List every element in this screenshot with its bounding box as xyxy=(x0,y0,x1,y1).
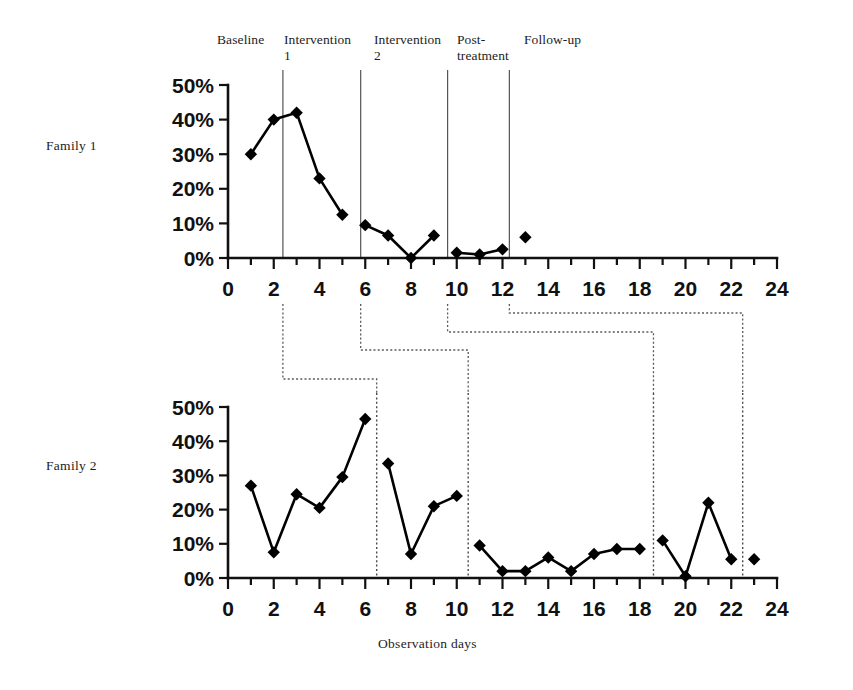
x-tick-label-16-family-2: 16 xyxy=(582,597,605,620)
data-line-segment-1-family-2 xyxy=(251,419,365,552)
y-tick-label-40-family-2: 40% xyxy=(172,430,214,453)
x-tick-label-0-family-2: 0 xyxy=(222,597,234,620)
x-tick-label-8-family-1: 8 xyxy=(405,277,417,300)
data-point-day-1-family-2 xyxy=(245,479,257,491)
data-point-day-9-family-2 xyxy=(428,500,440,512)
x-tick-label-8-family-2: 8 xyxy=(405,597,417,620)
data-point-day-23-family-2 xyxy=(748,553,760,565)
x-tick-label-16-family-1: 16 xyxy=(582,277,605,300)
data-point-day-4-family-1 xyxy=(313,172,325,184)
y-tick-label-30-family-2: 30% xyxy=(172,464,214,487)
phase-connector-4 xyxy=(509,304,742,393)
data-point-day-5-family-1 xyxy=(336,209,348,221)
data-point-day-7-family-2 xyxy=(382,457,394,469)
x-tick-label-12-family-1: 12 xyxy=(491,277,514,300)
x-tick-label-6-family-2: 6 xyxy=(359,597,371,620)
data-point-day-2-family-2 xyxy=(268,546,280,558)
x-tick-label-6-family-1: 6 xyxy=(359,277,371,300)
x-tick-label-18-family-2: 18 xyxy=(628,597,652,620)
data-point-day-12-family-1 xyxy=(496,243,508,255)
data-point-day-3-family-1 xyxy=(290,106,302,118)
y-tick-label-20-family-2: 20% xyxy=(172,498,214,521)
y-tick-label-40-family-1: 40% xyxy=(172,108,214,131)
y-tick-label-0-family-2: 0% xyxy=(184,567,215,590)
data-point-day-21-family-2 xyxy=(702,497,714,509)
x-tick-label-0-family-1: 0 xyxy=(222,277,234,300)
data-point-day-19-family-2 xyxy=(656,534,668,546)
data-point-day-3-family-2 xyxy=(290,488,302,500)
y-tick-label-20-family-1: 20% xyxy=(172,177,214,200)
x-tick-label-20-family-2: 20 xyxy=(674,597,697,620)
x-tick-label-24-family-2: 24 xyxy=(765,597,789,620)
x-tick-label-4-family-1: 4 xyxy=(314,277,326,300)
x-tick-label-22-family-1: 22 xyxy=(720,277,743,300)
data-point-day-13-family-2 xyxy=(519,565,531,577)
data-point-day-22-family-2 xyxy=(725,553,737,565)
x-tick-label-2-family-2: 2 xyxy=(268,597,280,620)
data-point-day-20-family-2 xyxy=(679,570,691,582)
phase-connector-1 xyxy=(283,304,377,393)
chart-figure: Baseline Intervention 1 Intervention 2 P… xyxy=(0,0,853,690)
data-point-day-10-family-2 xyxy=(451,490,463,502)
x-tick-label-12-family-2: 12 xyxy=(491,597,514,620)
x-tick-label-10-family-1: 10 xyxy=(445,277,468,300)
data-point-day-13-family-1 xyxy=(519,231,531,243)
phase-connector-3 xyxy=(448,304,654,393)
y-tick-label-50-family-2: 50% xyxy=(172,396,214,419)
data-line-segment-4-family-2 xyxy=(663,503,732,577)
panel-family-2: 0%10%20%30%40%50%024681012141618202224 xyxy=(172,393,789,620)
x-tick-label-22-family-2: 22 xyxy=(720,597,743,620)
x-tick-label-14-family-1: 14 xyxy=(537,277,561,300)
data-line-segment-2-family-1 xyxy=(365,225,434,258)
y-tick-label-0-family-1: 0% xyxy=(184,247,215,270)
x-tick-label-4-family-2: 4 xyxy=(314,597,326,620)
y-tick-label-10-family-1: 10% xyxy=(172,212,214,235)
x-tick-label-18-family-1: 18 xyxy=(628,277,652,300)
y-tick-label-30-family-1: 30% xyxy=(172,143,214,166)
phase-connectors xyxy=(283,304,743,393)
data-line-segment-1-family-1 xyxy=(251,113,343,215)
data-point-day-18-family-2 xyxy=(634,543,646,555)
x-tick-label-2-family-1: 2 xyxy=(268,277,280,300)
data-point-day-6-family-2 xyxy=(359,413,371,425)
data-point-day-8-family-2 xyxy=(405,548,417,560)
data-point-day-17-family-2 xyxy=(611,543,623,555)
y-tick-label-10-family-2: 10% xyxy=(172,532,214,555)
x-tick-label-10-family-2: 10 xyxy=(445,597,468,620)
data-line-segment-2-family-2 xyxy=(388,463,457,554)
x-tick-label-24-family-1: 24 xyxy=(765,277,789,300)
y-tick-label-50-family-1: 50% xyxy=(172,74,214,97)
panel-family-1: 0%10%20%30%40%50%024681012141618202224 xyxy=(172,70,789,300)
data-point-day-14-family-2 xyxy=(542,551,554,563)
x-tick-label-14-family-2: 14 xyxy=(537,597,561,620)
plot-canvas: 0%10%20%30%40%50%0246810121416182022240%… xyxy=(0,0,853,690)
x-tick-label-20-family-1: 20 xyxy=(674,277,697,300)
